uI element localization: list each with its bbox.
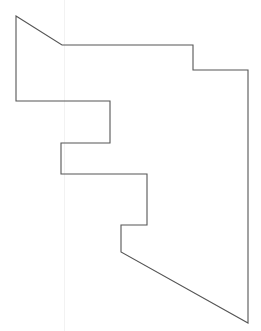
stepped-polygon-outline — [16, 16, 248, 323]
polygon-shape-svg — [0, 0, 261, 331]
diagram-canvas — [0, 0, 261, 331]
